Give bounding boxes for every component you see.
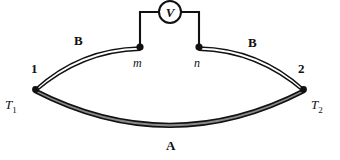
label-conductor-b-right: B [248, 36, 257, 49]
label-conductor-a: A [166, 139, 175, 152]
voltmeter-symbol: V [159, 1, 181, 23]
conductor-a-band [35, 89, 304, 127]
junction-dot-n [195, 43, 202, 50]
label-terminal-1: 1 [31, 62, 38, 75]
conductor-b-left-arc [35, 47, 140, 92]
label-temperature-t1-sub: 1 [12, 105, 17, 115]
junction-dot-m [136, 43, 143, 50]
junction-dots [32, 43, 307, 93]
label-junction-m: m [133, 57, 142, 69]
conductor-b-right-strip [199, 47, 304, 92]
conductor-b-left-strip [35, 47, 140, 92]
junction-dot-1 [32, 86, 39, 93]
voltmeter-lead-right [181, 12, 199, 47]
circuit-schematic: V [0, 0, 340, 160]
label-temperature-t1: T1 [5, 98, 17, 115]
junction-dot-2 [300, 86, 307, 93]
label-junction-n: n [194, 57, 200, 69]
thermocouple-diagram: V B B A m n 1 2 T1 T2 [0, 0, 340, 160]
label-temperature-t2: T2 [311, 98, 323, 115]
conductor-b-right-arc [199, 47, 304, 92]
label-conductor-b-left: B [74, 34, 83, 47]
label-terminal-2: 2 [298, 62, 305, 75]
voltmeter-lead-left [140, 12, 159, 47]
label-temperature-t2-sub: 2 [318, 105, 323, 115]
conductor-a-arc [35, 89, 304, 127]
voltmeter-letter: V [166, 5, 176, 20]
